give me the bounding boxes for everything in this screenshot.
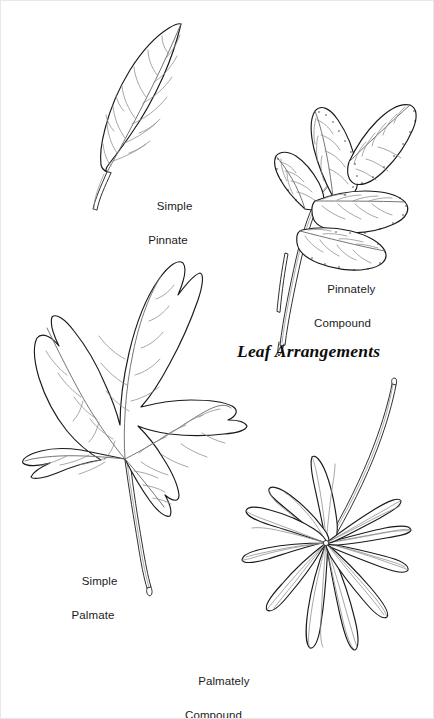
label-simple-pinnate-line1: Simple xyxy=(157,200,193,212)
specimen-simple-palmate xyxy=(23,262,247,596)
rachis-pinnately-compound xyxy=(277,201,319,356)
specimen-palmately-compound xyxy=(242,378,411,650)
leaflets-palmately-compound xyxy=(242,456,411,650)
label-simple-pinnate: Simple Pinnate xyxy=(122,181,214,283)
leaf-blade-simple-palmate xyxy=(23,262,247,517)
label-palmately-compound-line1: Palmately xyxy=(198,675,249,687)
figure-page: .outline { fill: #ffffff; stroke: #1a1a1… xyxy=(0,0,434,719)
figure-title: Leaf Arrangements xyxy=(237,341,380,362)
leaflet-attachment-point xyxy=(323,540,328,545)
label-pinnately-compound-line2: Compound xyxy=(314,315,424,332)
label-simple-palmate-line2: Palmate xyxy=(58,607,128,624)
label-pinnately-compound-line1: Pinnately xyxy=(327,283,375,295)
leaflet-terminal xyxy=(348,105,416,185)
label-simple-palmate: Simple Palmate xyxy=(58,556,128,658)
label-simple-pinnate-line2: Pinnate xyxy=(122,232,214,249)
label-simple-palmate-line1: Simple xyxy=(82,575,118,587)
petiole-simple-pinnate xyxy=(93,172,111,210)
leaf-blade-simple-pinnate xyxy=(101,24,181,172)
label-palmately-compound: Palmately Compound xyxy=(185,656,295,719)
leaflet-right-middle xyxy=(312,191,408,233)
label-palmately-compound-line2: Compound xyxy=(185,707,295,719)
